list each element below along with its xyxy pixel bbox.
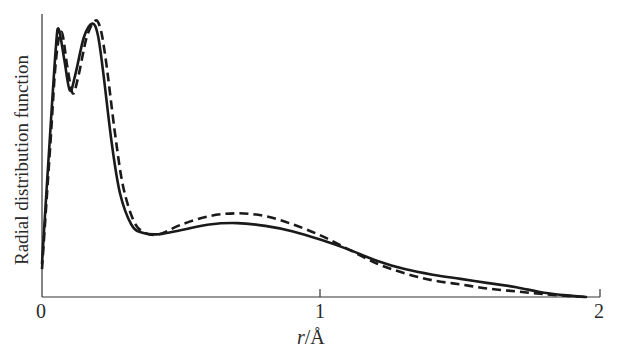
y-axis-title-text: Radial distribution function bbox=[11, 55, 33, 265]
x-axis-title: r/Å bbox=[297, 326, 325, 349]
x-axis-title-unit: /Å bbox=[305, 326, 325, 348]
series-solid-line bbox=[42, 24, 586, 297]
chart-plot-area bbox=[0, 0, 621, 361]
x-tick-label-1: 1 bbox=[315, 300, 325, 323]
x-tick-label-0: 0 bbox=[36, 300, 46, 323]
x-tick-label-2: 2 bbox=[594, 300, 604, 323]
series-dashed-line bbox=[42, 20, 586, 297]
x-axis-title-var: r bbox=[297, 326, 305, 348]
